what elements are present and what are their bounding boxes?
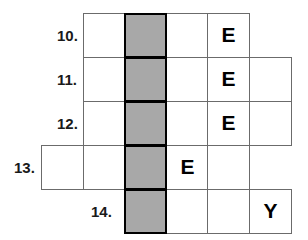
crossword-cell[interactable] [249,57,292,102]
crossword-cell[interactable] [166,13,209,58]
crossword-cell[interactable]: E [207,101,250,146]
crossword-puzzle-grid: EEEEY10.11.12.13.14. [0,0,308,240]
cell-letter: E [221,112,235,133]
crossword-cell-shaded[interactable] [124,13,167,58]
crossword-cell[interactable]: Y [249,189,292,234]
crossword-cell-shaded[interactable] [124,145,167,190]
crossword-cell[interactable]: E [166,145,209,190]
crossword-cell[interactable] [166,57,209,102]
crossword-cell[interactable] [249,101,292,146]
cell-letter: E [221,68,235,89]
cell-letter: Y [263,200,277,221]
crossword-cell[interactable] [207,189,250,234]
crossword-cell-shaded[interactable] [124,57,167,102]
clue-number-11: 11. [57,72,77,87]
crossword-cell[interactable] [207,145,250,190]
clue-number-14: 14. [91,204,112,219]
crossword-cell-shaded[interactable] [124,189,167,234]
crossword-cell[interactable] [166,189,209,234]
crossword-cell[interactable] [41,145,84,190]
crossword-cell[interactable] [166,101,209,146]
clue-number-10: 10. [57,28,78,43]
crossword-cell[interactable] [83,57,126,102]
crossword-cell[interactable] [83,13,126,58]
clue-number-12: 12. [57,116,78,131]
crossword-cell[interactable]: E [207,13,250,58]
cell-letter: E [180,156,194,177]
crossword-cell[interactable]: E [207,57,250,102]
crossword-cell[interactable] [83,145,126,190]
cell-letter: E [221,24,235,45]
clue-number-13: 13. [14,160,35,175]
crossword-cell-shaded[interactable] [124,101,167,146]
crossword-cell[interactable] [83,101,126,146]
